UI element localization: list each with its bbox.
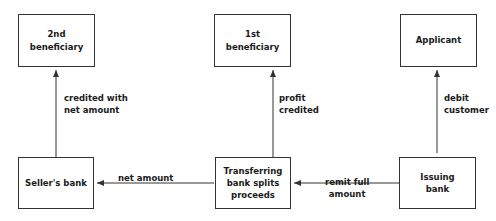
edge-text: debit [444, 92, 489, 104]
node-text: Applicant [416, 34, 461, 46]
node-text: Issuing [420, 171, 454, 183]
node-text: bank [420, 183, 454, 195]
edge-label-remit-full: remit full amount [325, 176, 369, 201]
node-text: Transferring [224, 165, 283, 177]
node-first-beneficiary: 1stbeneficiary [214, 14, 291, 67]
node-text: 2nd [30, 28, 83, 40]
edge-text: amount [325, 188, 369, 200]
node-text: proceeds [224, 189, 283, 201]
edge-label-net-amount: net amount [118, 172, 173, 184]
edge-text: profit [279, 92, 319, 104]
edge-text: credited with [64, 92, 128, 104]
node-transferring-bank: Transferringbank splitsproceeds [215, 157, 291, 209]
edge-text: remit full [325, 176, 369, 188]
edge-label-credited-net: credited with net amount [64, 92, 128, 117]
edge-label-profit-credited: profit credited [279, 92, 319, 117]
node-text: Seller's bank [25, 177, 87, 189]
node-text: 1st [226, 28, 279, 40]
edge-text: credited [279, 104, 319, 116]
node-issuing-bank: Issuingbank [399, 157, 476, 209]
edge-text: customer [444, 104, 489, 116]
node-text: bank splits [224, 177, 283, 189]
node-text: beneficiary [30, 41, 83, 53]
node-applicant: Applicant [400, 14, 477, 67]
node-text: beneficiary [226, 41, 279, 53]
node-second-beneficiary: 2ndbeneficiary [18, 14, 95, 67]
node-sellers-bank: Seller's bank [18, 157, 94, 209]
edge-label-debit-customer: debit customer [444, 92, 489, 117]
edge-text: net amount [118, 172, 173, 184]
edge-text: net amount [64, 104, 128, 116]
